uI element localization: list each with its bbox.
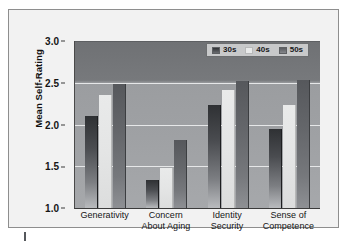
x-axis-label-line2: About Aging — [135, 221, 196, 232]
y-axis-tick-1-0: 1.0 — [45, 203, 65, 214]
bar — [146, 180, 159, 208]
bar — [297, 80, 310, 208]
x-axis-label-line2: Security — [197, 221, 258, 232]
legend-item-40s[interactable]: 40s — [245, 46, 269, 54]
bar — [208, 105, 221, 208]
figure-corner-tick — [24, 232, 26, 241]
y-axis-tick-mark — [61, 83, 65, 84]
x-axis-tick-labels: GenerativityConcernAbout AgingIdentitySe… — [74, 210, 319, 238]
x-axis-label: IdentitySecurity — [197, 210, 258, 232]
figure-frame: Mean Self-Rating 1.01.52.02.53.0 30s40s5… — [8, 9, 339, 228]
y-axis-tick-mark — [61, 166, 65, 167]
legend-label-40s: 40s — [256, 46, 269, 54]
plot-area — [74, 41, 320, 209]
y-axis-tick-text: 1.0 — [45, 203, 59, 214]
y-axis-tick-2-5: 2.5 — [45, 77, 65, 88]
y-axis-tick-3-0: 3.0 — [45, 36, 65, 47]
y-axis-tick-mark — [61, 124, 65, 125]
bar — [113, 84, 126, 208]
legend-label-50s: 50s — [290, 46, 303, 54]
bar — [236, 81, 249, 208]
y-axis-tick-text: 2.0 — [45, 119, 59, 130]
x-axis-label-line1: Identity — [213, 210, 242, 220]
x-axis-label-line1: Generativity — [81, 210, 129, 220]
bar — [160, 168, 173, 208]
figure-root: Mean Self-Rating 1.01.52.02.53.0 30s40s5… — [0, 0, 349, 245]
y-axis-tick-text: 2.5 — [45, 77, 59, 88]
y-axis-tick-2-0: 2.0 — [45, 119, 65, 130]
x-axis-label: Generativity — [74, 210, 135, 221]
bar — [85, 116, 98, 208]
y-axis-tick-text: 3.0 — [45, 36, 59, 47]
bar-group — [259, 41, 320, 208]
bar — [99, 95, 112, 208]
bar — [283, 105, 296, 208]
bar-group — [75, 41, 136, 208]
x-axis-label-line2: Competence — [258, 221, 319, 232]
legend-item-30s[interactable]: 30s — [212, 46, 236, 54]
y-axis-tick-mark — [61, 208, 65, 209]
y-axis-tick-mark — [61, 41, 65, 42]
bar — [222, 90, 235, 208]
legend-label-30s: 30s — [223, 46, 236, 54]
bar — [269, 129, 282, 208]
bar-group — [136, 41, 197, 208]
bar — [174, 140, 187, 208]
legend-swatch-50s — [279, 47, 287, 54]
legend-item-50s[interactable]: 50s — [279, 46, 303, 54]
bar-group — [198, 41, 259, 208]
y-axis-tick-labels: 1.01.52.02.53.0 — [31, 41, 69, 208]
y-axis-tick-text: 1.5 — [45, 161, 59, 172]
legend: 30s40s50s — [206, 43, 309, 57]
x-axis-label: ConcernAbout Aging — [135, 210, 196, 232]
x-axis-label-line1: Sense of — [271, 210, 307, 220]
legend-swatch-40s — [245, 47, 253, 54]
x-axis-label-line1: Concern — [149, 210, 183, 220]
x-axis-label: Sense ofCompetence — [258, 210, 319, 232]
legend-swatch-30s — [212, 47, 220, 54]
y-axis-tick-1-5: 1.5 — [45, 161, 65, 172]
